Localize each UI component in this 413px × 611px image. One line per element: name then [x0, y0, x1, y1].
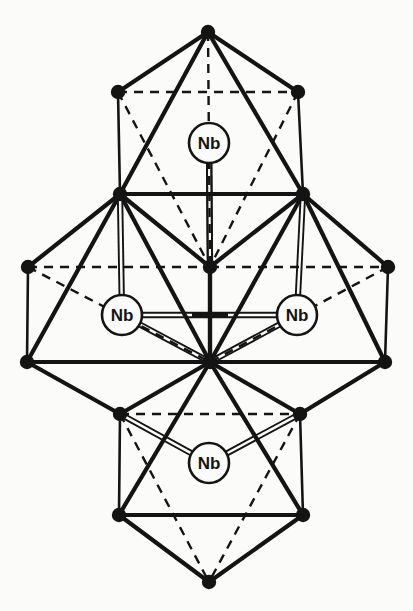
structure-canvas: NbNbNbNb: [0, 0, 413, 611]
atom-nb-right: Nb: [277, 295, 317, 335]
atom-nb-left: Nb: [102, 295, 142, 335]
vertex-lower-mid-right: [293, 407, 307, 421]
vertex-far-left-back: [21, 260, 35, 274]
structure-figure: NbNbNbNb: [0, 0, 413, 611]
vertex-far-left-front: [20, 355, 34, 369]
atom-label: Nb: [198, 454, 220, 473]
vertex-upper-mid-right: [296, 187, 310, 201]
vertex-bottom-apex: [202, 575, 216, 589]
vertex-bottom-front-left: [112, 508, 126, 522]
atom-label: Nb: [111, 306, 133, 325]
vertex-upper-mid-left: [113, 187, 127, 201]
vertex-far-right-front: [378, 355, 392, 369]
vertex-center-upper: [203, 260, 217, 274]
bond-stroke: [207, 162, 208, 266]
atom-nb-bottom: Nb: [189, 443, 229, 483]
vertex-center-lower: [203, 355, 217, 369]
vertex-top-back-right: [291, 85, 305, 99]
bond-stroke: [211, 162, 212, 266]
vertex-far-right-back: [381, 260, 395, 274]
vertex-lower-mid-left: [113, 407, 127, 421]
atom-label: Nb: [198, 134, 220, 153]
solid-edge: [119, 414, 120, 515]
atom-nb-top: Nb: [189, 123, 229, 163]
atom-label: Nb: [286, 306, 308, 325]
vertex-top-back-left: [111, 85, 125, 99]
solid-edge: [27, 267, 28, 362]
vertex-bottom-front-right: [296, 508, 310, 522]
vertex-top-apex: [201, 25, 215, 39]
